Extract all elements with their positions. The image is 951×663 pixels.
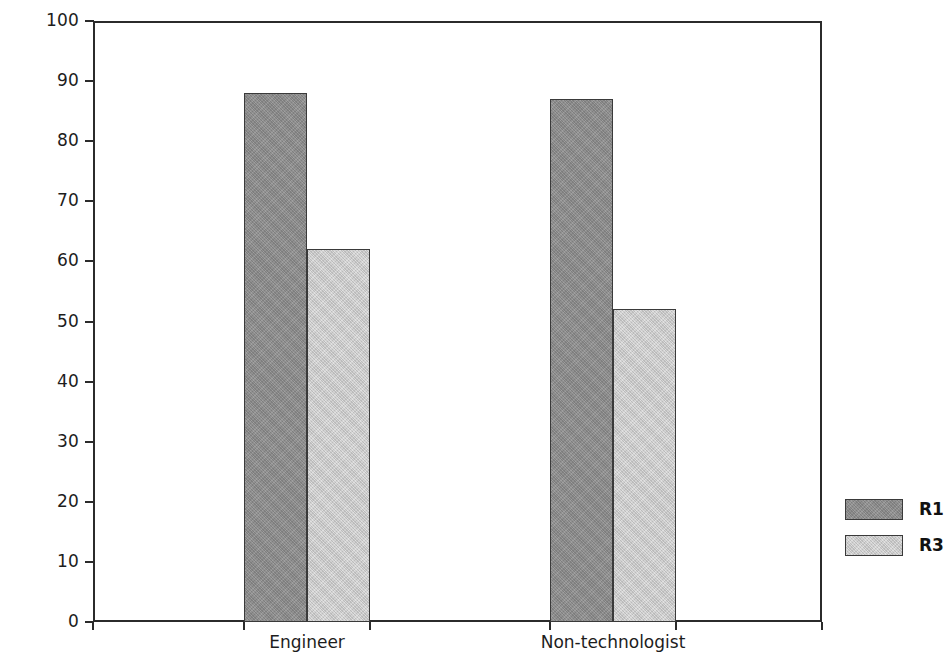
x-axis-tick (92, 622, 94, 630)
y-axis-tick-label: 90 (34, 70, 79, 90)
x-axis-category-label: Engineer (269, 632, 345, 652)
y-axis-tick-label: 40 (34, 371, 79, 391)
x-axis-category-label: Non-technologist (541, 632, 686, 652)
x-axis-tick (549, 622, 551, 630)
legend-swatch-r1 (845, 499, 903, 520)
x-axis-tick (243, 622, 245, 630)
legend-item-r1: R1 (845, 498, 944, 520)
bar-r1-engineer (244, 93, 307, 622)
x-axis-tick (369, 622, 371, 630)
y-axis-tick-label: 30 (34, 431, 79, 451)
y-axis-tick-label: 80 (34, 130, 79, 150)
x-axis-tick (675, 622, 677, 630)
legend-label-r3: R3 (919, 535, 944, 555)
y-axis-tick-label: 0 (34, 611, 79, 631)
y-axis-tick-label: 20 (34, 491, 79, 511)
y-axis-tick-label: 50 (34, 311, 79, 331)
bar-chart: Mean scores 0102030405060708090100 Engin… (0, 0, 951, 663)
legend: R1 R3 (845, 498, 944, 570)
y-axis-tick-label: 100 (34, 10, 79, 30)
y-axis-tick-label: 70 (34, 190, 79, 210)
legend-item-r3: R3 (845, 534, 944, 556)
y-axis-tick-label: 10 (34, 551, 79, 571)
legend-label-r1: R1 (919, 499, 944, 519)
bar-r1-non-technologist (550, 99, 613, 622)
y-axis-tick-label: 60 (34, 250, 79, 270)
legend-swatch-r3 (845, 535, 903, 556)
y-axis-title: Mean scores (0, 490, 2, 627)
x-axis-tick (821, 622, 823, 630)
bar-r3-engineer (307, 249, 370, 622)
plot-area (93, 21, 822, 622)
bar-r3-non-technologist (613, 309, 676, 622)
